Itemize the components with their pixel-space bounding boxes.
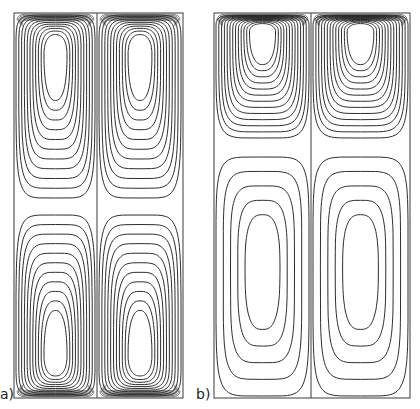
streamline-contour (313, 157, 408, 396)
streamline-contour (328, 186, 393, 363)
frame (214, 13, 410, 398)
streamline-contour (22, 234, 90, 393)
streamline-contour (316, 16, 405, 132)
panel-b-streamlines (214, 13, 410, 398)
streamline-contour (38, 28, 72, 120)
streamline-contour (44, 35, 67, 101)
streamline-contour (105, 234, 175, 393)
streamline-contour (327, 18, 394, 108)
streamline-contour (231, 186, 295, 363)
streamline-contour (343, 215, 379, 330)
streamline-contour (230, 18, 295, 108)
streamline-contour (108, 244, 173, 392)
streamline-contour (336, 20, 385, 90)
streamline-contour (24, 244, 86, 392)
streamline-contour (216, 157, 309, 396)
streamline-contour (122, 291, 157, 382)
streamline-contour (122, 28, 157, 120)
panel-a-streamlines (14, 13, 183, 398)
streamline-contour (227, 17, 298, 114)
streamline-contour (24, 19, 86, 169)
streamline-contour (324, 17, 396, 114)
streamline-contour (238, 20, 286, 90)
panel-a-label: a) (0, 386, 14, 402)
streamline-contour (38, 291, 72, 382)
streamline-contour (22, 18, 90, 179)
streamline-contour (128, 35, 152, 101)
streamline-contour (44, 311, 67, 377)
panel-b-label: b) (196, 386, 210, 402)
streamline-contour (347, 24, 374, 65)
streamline-contour (247, 22, 279, 70)
streamline-contour (250, 24, 276, 65)
streamline-contour (105, 18, 175, 179)
streamline-contour (128, 311, 152, 377)
streamline-contour (219, 16, 306, 132)
streamline-contour (344, 22, 376, 70)
streamline-contour (108, 19, 173, 169)
streamline-contour (245, 215, 280, 330)
contour-figure (0, 0, 420, 409)
